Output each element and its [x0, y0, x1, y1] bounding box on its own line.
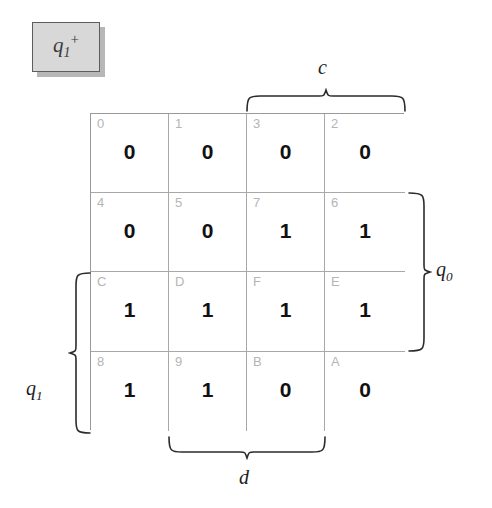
kmap-grid: 0 0 1 0 3 0 2 0 4 0 5 0 7 1 6 1 C 1 D 1 … [90, 113, 404, 430]
axis-label-q1: q1 [26, 377, 43, 404]
kmap-cell-index: 7 [253, 195, 261, 210]
kmap-cell-value: 1 [169, 298, 246, 322]
kmap-cell-index: D [175, 274, 185, 289]
kmap-cell[interactable]: B 0 [247, 352, 325, 431]
kmap-cell-value: 0 [169, 219, 246, 243]
kmap-title-subscript: 1 [64, 45, 71, 60]
kmap-cell-index: 2 [331, 116, 339, 131]
kmap-title-chip: q1+ [32, 22, 100, 72]
kmap-cell-value: 0 [91, 219, 168, 243]
kmap-cell[interactable]: 2 0 [325, 114, 405, 193]
brace-q1 [68, 270, 92, 436]
axis-label-q1-subscript: 1 [36, 388, 43, 403]
kmap-cell-value: 0 [325, 140, 405, 164]
kmap-cell[interactable]: 8 1 [91, 352, 169, 431]
kmap-cell-index: 0 [97, 116, 105, 131]
kmap-cell-index: 5 [175, 195, 183, 210]
kmap-cell-value: 1 [325, 219, 405, 243]
axis-label-q0-subscript: 0 [446, 269, 453, 284]
kmap-cell-index: B [253, 354, 262, 369]
kmap-title-superscript: + [70, 31, 79, 47]
kmap-cell-index: F [253, 274, 261, 289]
axis-label-d-base: d [239, 466, 249, 488]
kmap-cell[interactable]: D 1 [169, 272, 247, 352]
brace-d [166, 436, 328, 460]
kmap-title-base: q [53, 33, 64, 57]
kmap-cell-index: C [97, 274, 107, 289]
kmap-cell-value: 1 [91, 378, 168, 402]
kmap-cell[interactable]: 9 1 [169, 352, 247, 431]
kmap-cell[interactable]: 4 0 [91, 193, 169, 272]
brace-c [244, 88, 408, 112]
kmap-cell-value: 0 [247, 378, 324, 402]
axis-label-c-base: c [318, 56, 327, 78]
kmap-cell[interactable]: 5 0 [169, 193, 247, 272]
kmap-cell-index: E [331, 274, 340, 289]
kmap-cell[interactable]: 6 1 [325, 193, 405, 272]
kmap-cell-value: 0 [247, 140, 324, 164]
kmap-cell-value: 0 [91, 140, 168, 164]
kmap-cell-value: 1 [169, 378, 246, 402]
kmap-title-label: q1+ [53, 32, 79, 60]
kmap-cell[interactable]: 1 0 [169, 114, 247, 193]
kmap-cell-index: 4 [97, 195, 105, 210]
kmap-cell-value: 0 [169, 140, 246, 164]
axis-label-c: c [318, 56, 327, 83]
brace-q0 [408, 190, 432, 354]
kmap-cell-value: 1 [325, 298, 405, 322]
kmap-cell-value: 0 [325, 378, 405, 402]
kmap-cell-index: 9 [175, 354, 183, 369]
kmap-cell-value: 1 [247, 219, 324, 243]
kmap-cell-index: A [331, 354, 340, 369]
axis-label-d: d [239, 466, 249, 493]
axis-label-q0-base: q [436, 258, 446, 280]
kmap-cell[interactable]: 7 1 [247, 193, 325, 272]
kmap-cell-index: 6 [331, 195, 339, 210]
kmap-cell[interactable]: A 0 [325, 352, 405, 431]
kmap-cell[interactable]: C 1 [91, 272, 169, 352]
axis-label-q0: q0 [436, 258, 453, 285]
kmap-cell[interactable]: F 1 [247, 272, 325, 352]
kmap-cell-value: 1 [91, 298, 168, 322]
kmap-cell[interactable]: 3 0 [247, 114, 325, 193]
kmap-cell[interactable]: E 1 [325, 272, 405, 352]
kmap-cell-value: 1 [247, 298, 324, 322]
axis-label-q1-base: q [26, 377, 36, 399]
kmap-cell-index: 1 [175, 116, 183, 131]
kmap-cell-index: 8 [97, 354, 105, 369]
kmap-cell[interactable]: 0 0 [91, 114, 169, 193]
kmap-cell-index: 3 [253, 116, 261, 131]
